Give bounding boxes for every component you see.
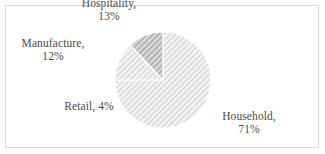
slice-label-household: Household, 71% — [201, 110, 297, 135]
slice-label-household-line2: 71% — [201, 123, 297, 136]
slice-label-household-line1: Household, — [222, 110, 276, 122]
slice-label-hospitality-line1: Hospitality, — [82, 0, 136, 9]
slice-label-retail-line1: Retail, 4% — [64, 100, 114, 112]
slice-label-manufacture-line2: 12% — [4, 50, 102, 63]
slice-label-manufacture: Manufacture, 12% — [4, 37, 102, 62]
slice-label-hospitality: Hospitality, 13% — [63, 0, 155, 22]
pie-slices — [115, 32, 211, 128]
pie-chart-screenshot: Hospitality, 13% Manufacture, 12% Retail… — [0, 0, 325, 154]
slice-label-hospitality-line2: 13% — [63, 10, 155, 23]
slice-label-retail: Retail, 4% — [47, 100, 131, 113]
slice-label-manufacture-line1: Manufacture, — [22, 37, 85, 49]
